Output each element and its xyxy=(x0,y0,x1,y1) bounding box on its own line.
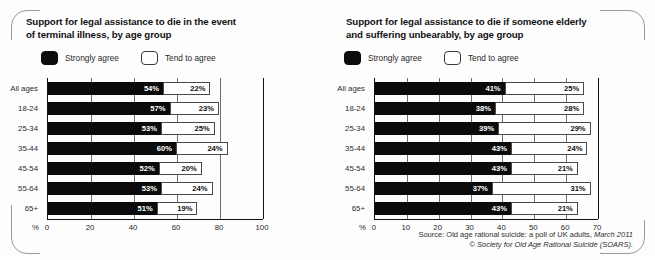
bar-segment-tend-to-agree: 24% xyxy=(176,142,228,155)
source-prefix: Source: Old age rational suicide: a poll… xyxy=(418,230,591,239)
bar-row: 54%22% xyxy=(48,82,210,95)
x-tick-label: 80 xyxy=(215,223,224,232)
bar-value-label: 54% xyxy=(144,84,163,93)
source-note-line-1: Source: Old age rational suicide: a poll… xyxy=(418,230,633,240)
bar-value-label: 31% xyxy=(570,184,589,193)
category-label: 35-44 xyxy=(345,144,365,153)
bar-row: 38%28% xyxy=(375,102,584,115)
bar-segment-strongly-agree: 41% xyxy=(375,82,506,95)
bar-value-label: 29% xyxy=(570,124,589,133)
bar-segment-tend-to-agree: 25% xyxy=(161,122,215,135)
bar-segment-tend-to-agree: 28% xyxy=(495,102,584,115)
x-tick-label: 100 xyxy=(255,223,268,232)
x-axis-unit-label: % xyxy=(359,223,366,232)
x-tick-label: 0 xyxy=(372,223,376,232)
bar-segment-strongly-agree: 54% xyxy=(48,82,164,95)
category-label: 45-54 xyxy=(345,164,365,173)
legend-swatch-tend-to-agree-icon xyxy=(444,51,461,65)
bar-segment-strongly-agree: 57% xyxy=(48,102,171,115)
bar-row: 39%29% xyxy=(375,122,591,135)
bar-value-label: 41% xyxy=(485,84,504,93)
chart-title: Support for legal assistance to die in t… xyxy=(26,16,316,41)
bar-segment-tend-to-agree: 31% xyxy=(492,182,591,195)
x-axis-tick-labels: 020406080100 xyxy=(47,223,262,237)
plot-area: 54%22%57%23%53%25%60%24%52%20%53%24%51%1… xyxy=(47,78,263,220)
source-note-line-2: © Society for Old Age Rational Suicide (… xyxy=(469,240,633,250)
bar-value-label: 19% xyxy=(177,204,196,213)
bar-value-label: 51% xyxy=(137,204,156,213)
bar-value-label: 43% xyxy=(492,164,511,173)
plot-right-edge xyxy=(598,78,599,219)
category-label: 25-34 xyxy=(345,124,365,133)
bar-segment-strongly-agree: 53% xyxy=(48,182,162,195)
bar-value-label: 38% xyxy=(476,104,495,113)
bar-segment-strongly-agree: 37% xyxy=(375,182,493,195)
category-axis-labels: All ages18-2425-3435-4445-5455-6465+ xyxy=(332,78,370,219)
bar-value-label: 28% xyxy=(564,104,583,113)
bar-row: 37%31% xyxy=(375,182,591,195)
bar-segment-tend-to-agree: 24% xyxy=(161,182,213,195)
legend-swatch-tend-to-agree-icon xyxy=(141,51,158,65)
bar-segment-strongly-agree: 52% xyxy=(48,162,160,175)
legend-label-strongly-agree: Strongly agree xyxy=(65,53,119,63)
bar-value-label: 39% xyxy=(479,124,498,133)
category-label: 18-24 xyxy=(18,104,38,113)
bar-segment-strongly-agree: 43% xyxy=(375,162,512,175)
bar-row: 43%21% xyxy=(375,162,578,175)
bar-segment-tend-to-agree: 29% xyxy=(498,122,590,135)
bar-value-label: 43% xyxy=(492,204,511,213)
plot-area: 41%25%38%28%39%29%43%24%43%21%37%31%43%2… xyxy=(374,78,598,220)
bar-value-label: 60% xyxy=(157,144,176,153)
bar-row: 43%21% xyxy=(375,202,578,215)
bar-segment-strongly-agree: 51% xyxy=(48,202,158,215)
bar-value-label: 24% xyxy=(192,184,211,193)
chart-panel-terminal-illness: Support for legal assistance to die in t… xyxy=(0,0,332,257)
bar-segment-tend-to-agree: 21% xyxy=(511,162,578,175)
x-axis-unit-label: % xyxy=(32,223,39,232)
x-tick-label: 0 xyxy=(45,223,49,232)
bar-value-label: 57% xyxy=(150,104,169,113)
legend-swatch-strongly-agree-icon xyxy=(344,51,361,65)
bar-segment-strongly-agree: 43% xyxy=(375,202,512,215)
bar-segment-strongly-agree: 38% xyxy=(375,102,496,115)
chart-legend: Strongly agree Tend to agree xyxy=(344,51,541,65)
plot-right-edge xyxy=(263,78,264,219)
legend-label-tend-to-agree: Tend to agree xyxy=(468,53,519,63)
bar-value-label: 25% xyxy=(564,84,583,93)
bar-row: 51%19% xyxy=(48,202,197,215)
category-axis-labels: All ages18-2425-3435-4445-5455-6465+ xyxy=(0,78,43,219)
category-label: 55-64 xyxy=(18,184,38,193)
bar-value-label: 43% xyxy=(492,144,511,153)
bar-value-label: 20% xyxy=(182,164,201,173)
bar-row: 53%25% xyxy=(48,122,215,135)
bar-row: 43%24% xyxy=(375,142,587,155)
legend-item-strongly-agree: Strongly agree xyxy=(344,51,422,65)
bar-segment-tend-to-agree: 23% xyxy=(170,102,219,115)
bar-value-label: 53% xyxy=(142,124,161,133)
chart-legend: Strongly agree Tend to agree xyxy=(41,51,238,65)
x-tick-label: 10 xyxy=(402,223,411,232)
category-label: 55-64 xyxy=(345,184,365,193)
bar-segment-tend-to-agree: 21% xyxy=(511,202,578,215)
legend-item-tend-to-agree: Tend to agree xyxy=(141,51,216,65)
bar-segment-tend-to-agree: 25% xyxy=(505,82,585,95)
bar-segment-tend-to-agree: 22% xyxy=(163,82,210,95)
bar-segment-tend-to-agree: 20% xyxy=(159,162,202,175)
bar-segment-tend-to-agree: 24% xyxy=(511,142,587,155)
chart-panel-elderly-suffering: Support for legal assistance to die if s… xyxy=(332,0,655,257)
category-label: 45-54 xyxy=(18,164,38,173)
legend-label-strongly-agree: Strongly agree xyxy=(368,53,422,63)
bar-value-label: 24% xyxy=(207,144,226,153)
chart-title: Support for legal assistance to die if s… xyxy=(346,16,646,41)
bar-row: 41%25% xyxy=(375,82,584,95)
category-label: 65+ xyxy=(352,204,365,213)
legend-label-tend-to-agree: Tend to agree xyxy=(165,53,216,63)
legend-swatch-strongly-agree-icon xyxy=(41,51,58,65)
bar-value-label: 22% xyxy=(190,84,209,93)
category-label: 65+ xyxy=(25,204,38,213)
bar-value-label: 21% xyxy=(558,204,577,213)
category-label: All ages xyxy=(10,84,38,93)
bar-value-label: 25% xyxy=(194,124,213,133)
source-date: March 2011 xyxy=(594,230,633,239)
bar-segment-tend-to-agree: 19% xyxy=(157,202,198,215)
